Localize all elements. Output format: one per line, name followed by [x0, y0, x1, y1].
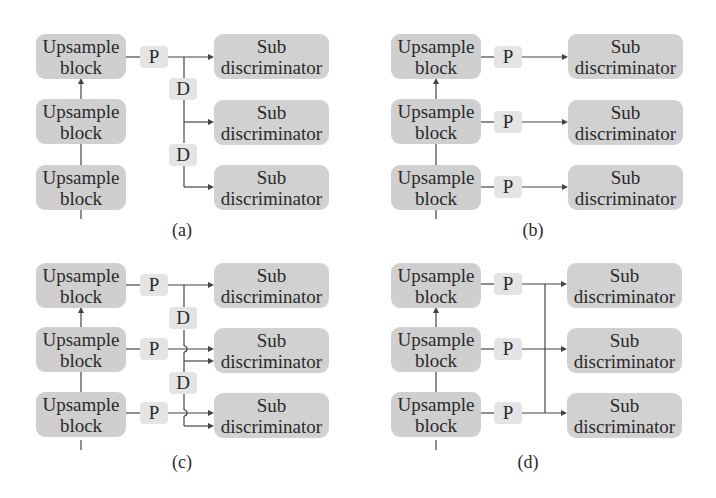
upsample-block: Upsample block [391, 34, 481, 79]
pool-block: P [140, 402, 168, 424]
panel-c: Upsample block Upsample block Upsample b… [0, 250, 358, 498]
downsample-block: D [169, 144, 197, 166]
sub-discriminator: Sub discriminator [214, 393, 329, 438]
panel-caption: (b) [513, 220, 553, 241]
downsample-block: D [169, 307, 197, 329]
pool-block: P [494, 176, 522, 198]
panel-a: Upsample block Upsample block Upsample b… [0, 0, 358, 249]
panel-caption: (a) [162, 220, 202, 241]
pool-block: P [140, 274, 168, 296]
upsample-block: Upsample block [36, 263, 126, 308]
pool-block: P [140, 338, 168, 360]
upsample-block: Upsample block [391, 99, 481, 144]
downsample-block: D [169, 78, 197, 100]
pool-block: P [140, 46, 168, 68]
panel-d: Upsample block Upsample block Upsample b… [355, 250, 713, 498]
sub-discriminator: Sub discriminator [214, 328, 329, 373]
pool-block: P [494, 46, 522, 68]
sub-discriminator: Sub discriminator [567, 328, 682, 373]
sub-discriminator: Sub discriminator [568, 100, 683, 145]
sub-discriminator: Sub discriminator [214, 263, 329, 308]
pool-block: P [494, 273, 522, 295]
upsample-block: Upsample block [391, 392, 481, 437]
upsample-block: Upsample block [36, 392, 126, 437]
panel-b: Upsample block Upsample block Upsample b… [355, 0, 713, 249]
pool-block: P [494, 402, 522, 424]
sub-discriminator: Sub discriminator [567, 263, 682, 308]
sub-discriminator: Sub discriminator [568, 34, 683, 79]
downsample-block: D [169, 372, 197, 394]
upsample-block: Upsample block [391, 263, 481, 308]
upsample-block: Upsample block [391, 165, 481, 210]
sub-discriminator: Sub discriminator [214, 165, 329, 210]
sub-discriminator: Sub discriminator [568, 165, 683, 210]
sub-discriminator: Sub discriminator [214, 100, 329, 145]
sub-discriminator: Sub discriminator [214, 34, 329, 79]
upsample-block: Upsample block [36, 34, 126, 79]
sub-discriminator: Sub discriminator [567, 393, 682, 438]
pool-block: P [494, 111, 522, 133]
upsample-block: Upsample block [36, 99, 126, 144]
upsample-block: Upsample block [36, 165, 126, 210]
panel-caption: (c) [162, 452, 202, 473]
panel-caption: (d) [508, 452, 548, 473]
upsample-block: Upsample block [36, 327, 126, 372]
upsample-block: Upsample block [391, 327, 481, 372]
pool-block: P [494, 338, 522, 360]
